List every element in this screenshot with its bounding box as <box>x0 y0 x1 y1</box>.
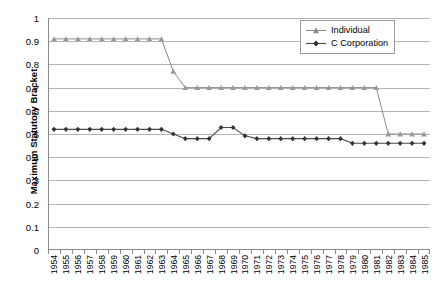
data-point-marker <box>87 127 92 132</box>
x-axis-tick <box>144 250 145 254</box>
data-point-marker <box>64 127 69 132</box>
legend-swatch-individual <box>305 25 327 36</box>
x-axis-tick <box>394 250 395 254</box>
x-axis-tick <box>382 250 383 254</box>
x-axis-tick-label: 1982 <box>384 255 394 274</box>
data-point-marker <box>290 136 295 141</box>
data-point-marker <box>314 136 319 141</box>
data-point-marker <box>183 136 188 141</box>
x-axis-tick-label: 1976 <box>312 255 322 274</box>
x-axis-tick-label: 1962 <box>145 255 155 274</box>
x-axis-tick <box>215 250 216 254</box>
x-axis-tick-label: 1977 <box>324 255 334 274</box>
series-line <box>54 128 424 144</box>
x-axis-tick-label: 1956 <box>73 255 83 274</box>
x-axis-tick <box>429 250 430 254</box>
x-axis-tick <box>203 250 204 254</box>
data-point-marker <box>123 127 128 132</box>
data-point-marker <box>362 141 367 146</box>
x-axis-tick-label: 1958 <box>97 255 107 274</box>
x-axis-tick-label: 1978 <box>336 255 346 274</box>
x-axis-tick-label: 1979 <box>348 255 358 274</box>
x-axis-tick-label: 1970 <box>240 255 250 274</box>
x-axis-tick <box>358 250 359 254</box>
x-axis-tick-label: 1965 <box>181 255 191 274</box>
data-point-marker <box>147 127 152 132</box>
x-axis-tick <box>418 250 419 254</box>
x-axis-tick <box>370 250 371 254</box>
x-axis-tick-label: 1971 <box>252 255 262 274</box>
x-axis-tick-label: 1957 <box>85 255 95 274</box>
series-c-corporation <box>52 125 427 146</box>
x-axis-tick <box>108 250 109 254</box>
x-axis-tick <box>239 250 240 254</box>
x-axis-tick <box>299 250 300 254</box>
data-point-marker <box>278 136 283 141</box>
x-axis-tick-label: 1984 <box>408 255 418 274</box>
y-axis-tick-labels: 00.10.20.30.40.50.60.70.80.91 <box>0 18 44 250</box>
data-point-marker <box>338 136 343 141</box>
data-point-marker <box>350 141 355 146</box>
y-axis-tick-label: 0 <box>34 245 39 256</box>
x-axis-tick <box>84 250 85 254</box>
x-axis-tick-label: 1960 <box>121 255 131 274</box>
x-axis-tick <box>275 250 276 254</box>
x-axis-tick <box>311 250 312 254</box>
y-axis-tick-label: 0.7 <box>26 82 39 93</box>
y-axis-tick-label: 0.1 <box>26 221 39 232</box>
data-point-marker <box>386 141 391 146</box>
x-axis-tick-label: 1955 <box>61 255 71 274</box>
y-axis-tick-label: 0.9 <box>26 36 39 47</box>
data-point-marker <box>266 136 271 141</box>
x-axis-tick-label: 1975 <box>300 255 310 274</box>
x-axis-tick-label: 1959 <box>109 255 119 274</box>
x-axis-tick-label: 1983 <box>396 255 406 274</box>
x-axis-tick <box>323 250 324 254</box>
y-axis-tick-label: 1 <box>34 13 39 24</box>
x-axis-tick <box>132 250 133 254</box>
x-axis-tick-label: 1981 <box>372 255 382 274</box>
data-point-marker <box>326 136 331 141</box>
x-axis-tick <box>48 250 49 254</box>
x-axis-tick <box>167 250 168 254</box>
x-axis-tick <box>191 250 192 254</box>
x-axis-tick <box>120 250 121 254</box>
x-axis-tick <box>96 250 97 254</box>
data-point-marker <box>170 69 176 74</box>
x-axis-tick <box>346 250 347 254</box>
x-axis-tick <box>155 250 156 254</box>
x-axis-tick-label: 1964 <box>169 255 179 274</box>
x-axis-tick-label: 1973 <box>276 255 286 274</box>
x-axis-tick-label: 1969 <box>229 255 239 274</box>
chart-container: Maximum Statutory Bracket 00.10.20.30.40… <box>0 0 438 296</box>
data-point-marker <box>302 136 307 141</box>
data-point-marker <box>111 127 116 132</box>
x-axis-tick-label: 1963 <box>157 255 167 274</box>
x-axis-tick-label: 1980 <box>360 255 370 274</box>
x-axis-tick <box>406 250 407 254</box>
x-axis-tick-label: 1961 <box>133 255 143 274</box>
x-axis-tick <box>335 250 336 254</box>
legend-swatch-c-corporation <box>305 38 327 49</box>
x-axis-tick-labels: 1954195519561957195819591960196119621963… <box>48 255 430 295</box>
x-axis-tick <box>227 250 228 254</box>
x-axis-tick <box>60 250 61 254</box>
x-axis-tick-label: 1967 <box>205 255 215 274</box>
data-point-marker <box>159 127 164 132</box>
y-axis-tick-label: 0.5 <box>26 129 39 140</box>
x-axis-tick-label: 1985 <box>420 255 430 274</box>
x-axis-tick-label: 1968 <box>217 255 227 274</box>
x-axis-tick <box>72 250 73 254</box>
x-axis-tick <box>287 250 288 254</box>
data-point-marker <box>374 141 379 146</box>
x-axis-tick <box>179 250 180 254</box>
x-axis-tick <box>251 250 252 254</box>
y-axis-tick-label: 0.8 <box>26 59 39 70</box>
data-point-marker <box>52 127 57 132</box>
data-point-marker <box>99 127 104 132</box>
legend-label-c-corporation: C Corporation <box>331 37 388 50</box>
data-point-marker <box>171 131 176 136</box>
legend-label-individual: Individual <box>331 24 370 37</box>
legend-item-individual: Individual <box>305 24 388 37</box>
x-axis-tick-label: 1954 <box>49 255 59 274</box>
